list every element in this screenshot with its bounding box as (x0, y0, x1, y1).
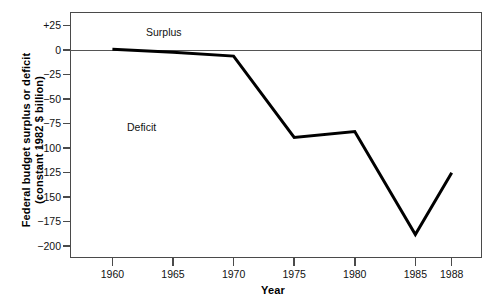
y-tick-label: −125 (7, 167, 61, 178)
x-tick-mark (354, 258, 356, 266)
x-tick-mark (233, 258, 235, 266)
x-tick-mark (112, 258, 114, 266)
x-tick-label: 1988 (429, 269, 475, 280)
chart-figure: Federal budget surplus or deficit (const… (0, 0, 490, 307)
x-tick-label: 1975 (271, 269, 317, 280)
y-tick-label: −100 (7, 143, 61, 154)
x-tick-label: 1965 (150, 269, 196, 280)
x-tick-label: 1980 (332, 269, 378, 280)
x-tick-mark (293, 258, 295, 266)
y-tick-label: −25 (7, 69, 61, 80)
y-axis-tick-labels: +250−25−50−75−100−125−150−175−200 (0, 0, 61, 307)
annotation-surplus: Surplus (146, 27, 182, 38)
y-tick-label: 0 (7, 45, 61, 56)
y-tick-label: −75 (7, 118, 61, 129)
zero-reference-line (70, 50, 482, 51)
x-tick-label: 1960 (89, 269, 135, 280)
y-tick-label: −150 (7, 192, 61, 203)
x-axis-title-text: Year (261, 284, 285, 296)
x-tick-mark (172, 258, 174, 266)
y-tick-label: +25 (7, 20, 61, 31)
y-tick-label: −175 (7, 216, 61, 227)
x-tick-label: 1970 (211, 269, 257, 280)
annotation-deficit: Deficit (127, 122, 156, 133)
y-tick-label: −50 (7, 94, 61, 105)
x-axis-title: Year (0, 284, 490, 296)
x-tick-mark (451, 258, 453, 266)
x-tick-mark (415, 258, 417, 266)
y-tick-label: −200 (7, 241, 61, 252)
